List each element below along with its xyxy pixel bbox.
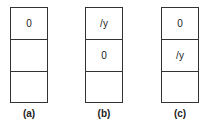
stack-c-cell-1: /y	[162, 40, 198, 72]
stack-c-cell-2	[162, 72, 198, 102]
stack-c-cell-0: 0	[162, 8, 198, 40]
stack-a-cell-1	[11, 40, 47, 72]
stack-a-cell-0: 0	[11, 8, 47, 40]
panel-label-c: (c)	[161, 108, 199, 119]
stack-b: /y 0	[85, 7, 123, 103]
panel-label-a: (a)	[10, 108, 48, 119]
stack-a-cell-2	[11, 72, 47, 102]
stack-a: 0	[10, 7, 48, 103]
stack-c: 0 /y	[161, 7, 199, 103]
panel-label-b: (b)	[85, 108, 123, 119]
stack-b-cell-0: /y	[86, 8, 122, 40]
stack-b-cell-2	[86, 72, 122, 102]
stack-b-cell-1: 0	[86, 40, 122, 72]
